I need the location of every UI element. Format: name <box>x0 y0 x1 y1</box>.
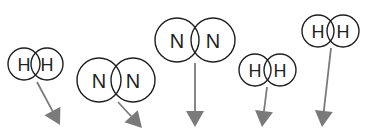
atom-label: H <box>337 22 350 42</box>
atom-label: H <box>312 22 325 42</box>
velocity-arrow-icon <box>37 82 60 125</box>
atom-label: N <box>206 30 220 52</box>
gas-molecules-diagram: HHNNNNHHHH <box>0 0 367 129</box>
velocity-arrow-icon <box>255 87 273 127</box>
velocity-arrow-icon <box>118 102 142 128</box>
velocity-arrow-icon <box>186 63 204 127</box>
atom-label: N <box>170 30 184 52</box>
atom-label: N <box>92 70 106 92</box>
velocity-arrow-icon <box>315 48 333 127</box>
molecule-h2: HH <box>8 48 63 125</box>
atom-label: H <box>18 55 31 75</box>
atom-label: N <box>126 70 140 92</box>
atom-label: H <box>41 55 54 75</box>
diagram-svg: HHNNNNHHHH <box>0 0 367 129</box>
molecule-h2: HH <box>302 15 359 127</box>
atom-label: H <box>274 61 287 81</box>
molecule-n2: NN <box>77 58 155 128</box>
molecule-h2: HH <box>239 54 296 127</box>
molecule-n2: NN <box>155 18 235 127</box>
atom-label: H <box>249 61 262 81</box>
